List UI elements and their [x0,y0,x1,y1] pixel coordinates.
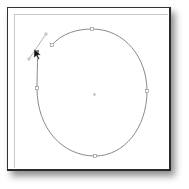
center-point-marker [94,94,96,96]
anchor-point[interactable] [51,44,54,47]
anchor-point[interactable] [146,90,149,93]
anchor-point[interactable] [36,87,39,90]
handle-endpoint-top[interactable] [45,33,47,35]
anchor-point[interactable] [94,155,97,158]
handle-endpoint-bottom[interactable] [28,58,30,60]
anchor-point[interactable] [91,28,94,31]
drawing-canvas[interactable] [0,0,189,189]
bezier-path[interactable] [37,29,147,156]
